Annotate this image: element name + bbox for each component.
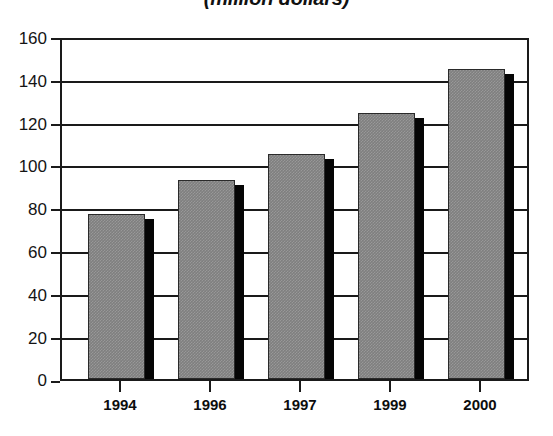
y-axis-tick-label: 60 bbox=[28, 244, 47, 261]
plot-area bbox=[60, 38, 529, 381]
x-axis-tick-mark bbox=[389, 381, 391, 392]
x-axis-tick-label-1999: 1999 bbox=[345, 396, 435, 413]
bar-face bbox=[358, 113, 415, 379]
y-axis-tick-label: 80 bbox=[28, 201, 47, 218]
bar-shadow bbox=[145, 219, 154, 379]
bar-face bbox=[448, 69, 505, 379]
y-axis-tick-mark bbox=[51, 124, 60, 126]
bar-2000 bbox=[448, 69, 514, 379]
x-axis-tick-mark bbox=[479, 381, 481, 392]
x-axis-tick-label-2000: 2000 bbox=[435, 396, 525, 413]
bar-shadow bbox=[235, 185, 244, 379]
bar-shadow bbox=[505, 74, 514, 379]
bar-1999 bbox=[358, 113, 424, 379]
x-axis-tick-label-1997: 1997 bbox=[255, 396, 345, 413]
y-axis-tick-label: 120 bbox=[19, 116, 47, 133]
y-axis-tick-label: 160 bbox=[19, 30, 47, 47]
y-axis-tick-mark bbox=[51, 381, 60, 383]
x-axis-tick-label-1994: 1994 bbox=[75, 396, 165, 413]
y-axis-tick-mark bbox=[51, 166, 60, 168]
y-axis-tick-label: 0 bbox=[38, 372, 47, 389]
x-axis-tick-label-1996: 1996 bbox=[165, 396, 255, 413]
bar-1996 bbox=[178, 180, 244, 379]
x-axis-tick-mark bbox=[119, 381, 121, 392]
bar-1997 bbox=[268, 154, 334, 379]
bar-face bbox=[268, 154, 325, 379]
y-axis-tick-mark bbox=[51, 209, 60, 211]
y-axis-tick-label: 140 bbox=[19, 73, 47, 90]
bar-face bbox=[178, 180, 235, 379]
x-axis-tick-mark bbox=[299, 381, 301, 392]
y-axis-tick-mark bbox=[51, 252, 60, 254]
y-axis-tick-label: 100 bbox=[19, 158, 47, 175]
y-axis-tick-mark bbox=[51, 338, 60, 340]
bar-chart-figure: (million dollars) 160 140 120 100 80 60 … bbox=[0, 0, 553, 436]
chart-title: (million dollars) bbox=[0, 0, 553, 10]
y-axis-tick-label: 40 bbox=[28, 287, 47, 304]
bar-shadow bbox=[415, 118, 424, 379]
bar-face bbox=[88, 214, 145, 379]
x-axis-tick-mark bbox=[209, 381, 211, 392]
bar-1994 bbox=[88, 214, 154, 379]
y-axis-tick-label: 20 bbox=[28, 330, 47, 347]
y-axis-tick-mark bbox=[51, 295, 60, 297]
y-axis-tick-mark bbox=[51, 81, 60, 83]
y-axis-tick-mark bbox=[51, 38, 60, 40]
bar-shadow bbox=[325, 159, 334, 379]
